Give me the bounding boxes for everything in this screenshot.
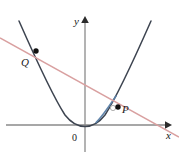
point-q-label: Q (21, 57, 29, 68)
point-p-marker (115, 104, 120, 109)
open-circle-marker (110, 105, 115, 110)
x-axis-label: x (166, 130, 171, 141)
graph-svg (0, 0, 179, 167)
y-axis-arrow-icon (81, 16, 89, 23)
x-axis-arrow-icon (165, 121, 172, 129)
figure-canvas: y x P Q 0 (0, 0, 179, 167)
x-axis (6, 121, 172, 129)
point-q-marker (33, 48, 38, 53)
origin-label: 0 (72, 133, 77, 143)
secant-line (0, 38, 179, 137)
y-axis-label: y (74, 16, 79, 27)
point-p-label: P (122, 104, 129, 115)
